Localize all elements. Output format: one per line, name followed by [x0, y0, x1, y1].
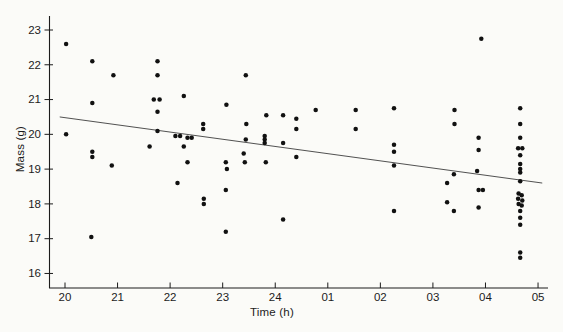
data-point [518, 250, 523, 255]
data-point [518, 122, 523, 127]
scatter-figure: 161718192021222320212223240102030405 Mas… [0, 0, 563, 332]
x-tick-label: 03 [427, 291, 440, 303]
data-point [224, 103, 229, 108]
data-point [90, 59, 95, 64]
x-tick-label: 24 [269, 291, 282, 303]
data-point [189, 136, 194, 141]
data-point [452, 122, 457, 127]
data-point [481, 188, 486, 193]
x-tick-label: 21 [111, 291, 124, 303]
data-point [518, 170, 523, 175]
data-point [90, 101, 95, 106]
data-point [152, 97, 157, 102]
data-point [294, 127, 299, 132]
data-point [518, 179, 523, 184]
x-tick-label: 01 [321, 291, 334, 303]
data-point [64, 132, 69, 137]
data-point [479, 36, 484, 41]
data-point [353, 108, 358, 113]
data-point [313, 108, 318, 113]
data-point [518, 162, 523, 167]
data-point [518, 223, 523, 228]
data-point [90, 149, 95, 154]
x-tick-label: 05 [532, 291, 545, 303]
data-point [241, 151, 246, 156]
y-tick-label: 20 [28, 128, 41, 140]
data-point [244, 73, 249, 78]
data-point [185, 136, 190, 141]
data-point [294, 155, 299, 160]
data-point [243, 160, 248, 165]
x-tick-label: 20 [59, 291, 72, 303]
data-point [476, 188, 481, 193]
plot-canvas: 161718192021222320212223240102030405 [0, 0, 563, 332]
data-point [173, 134, 178, 139]
y-tick-label: 23 [28, 24, 41, 36]
data-point [110, 163, 115, 168]
data-point [519, 203, 524, 208]
data-point [201, 122, 206, 127]
data-point [452, 209, 457, 214]
data-point [475, 169, 480, 174]
data-point [281, 141, 286, 146]
data-point [264, 160, 269, 165]
data-point [225, 167, 230, 172]
data-point [518, 256, 523, 261]
x-tick-label: 22 [164, 291, 177, 303]
data-point [392, 149, 397, 154]
data-point [518, 216, 523, 221]
data-point [185, 160, 190, 165]
data-point [476, 136, 481, 141]
data-point [224, 229, 229, 234]
data-point [520, 146, 525, 151]
data-point [178, 134, 183, 139]
y-tick-label: 19 [28, 163, 41, 175]
data-point [353, 127, 358, 132]
data-point [518, 153, 523, 158]
data-point [516, 146, 521, 151]
data-point [244, 122, 249, 127]
data-point [155, 109, 160, 114]
data-point [155, 73, 160, 78]
data-point [202, 196, 207, 201]
data-point [392, 163, 397, 168]
y-tick-label: 18 [28, 198, 41, 210]
data-point [224, 188, 229, 193]
data-point [202, 202, 207, 207]
data-point [90, 155, 95, 160]
data-point [445, 181, 450, 186]
data-point [89, 235, 94, 240]
trend-line [60, 117, 543, 183]
y-tick-label: 16 [28, 267, 41, 279]
data-point [64, 42, 69, 47]
data-point [519, 193, 524, 198]
data-point [445, 200, 450, 205]
data-point [155, 59, 160, 64]
data-point [264, 113, 269, 118]
x-tick-label: 02 [374, 291, 387, 303]
y-axis-title: Mass (g) [14, 93, 26, 205]
x-tick-label: 04 [479, 291, 492, 303]
data-point [155, 129, 160, 134]
data-point [281, 113, 286, 118]
data-point [516, 196, 521, 201]
data-point [201, 127, 206, 132]
data-point [294, 116, 299, 121]
data-point [157, 97, 162, 102]
data-point [476, 148, 481, 153]
data-point [244, 137, 249, 142]
data-point [452, 172, 457, 177]
y-tick-label: 21 [28, 93, 41, 105]
data-point [518, 106, 523, 111]
data-point [518, 209, 523, 214]
data-point [224, 160, 229, 165]
data-point [262, 141, 267, 146]
data-point [520, 198, 525, 203]
data-point [175, 181, 180, 186]
data-point [147, 144, 152, 149]
y-tick-label: 17 [28, 232, 41, 244]
data-point [281, 217, 286, 222]
x-tick-label: 23 [216, 291, 229, 303]
data-point [476, 205, 481, 210]
data-point [111, 73, 116, 78]
